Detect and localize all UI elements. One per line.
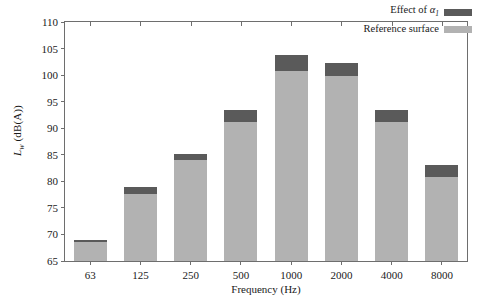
bar-segment-effect-of-alpha [124, 187, 157, 194]
bar-segment-reference-surface [325, 76, 358, 261]
bar-segment-reference-surface [124, 194, 157, 261]
y-axis-label-symbol: L [10, 150, 22, 156]
legend-label-effect-of-alpha: Effect of α1 [390, 4, 439, 20]
y-axis-label: Lw (dB(A)) [6, 0, 30, 262]
bar-segment-reference-surface [425, 177, 458, 261]
y-axis-tick-label: 70 [47, 226, 58, 242]
legend-label-reference-surface: Reference surface [364, 23, 439, 35]
y-axis-tick-label: 100 [42, 67, 59, 83]
x-axis-label: Frequency (Hz) [64, 283, 468, 295]
x-axis-tick-label: 125 [132, 268, 149, 282]
y-axis-tick-mark [61, 181, 65, 182]
x-axis-tick-label: 250 [182, 268, 199, 282]
bar-segment-effect-of-alpha [275, 55, 308, 71]
x-axis-tick-mark [291, 261, 292, 265]
bar-segment-effect-of-alpha [425, 165, 458, 177]
bar-segment-effect-of-alpha [375, 110, 408, 122]
bar-1000 [275, 55, 308, 261]
y-axis-tick-mark [61, 48, 65, 49]
bar-2000 [325, 63, 358, 261]
x-axis-tick-mark [341, 261, 342, 265]
legend-item-reference-surface: Reference surface [364, 23, 472, 35]
y-axis-label-subscript: w [17, 145, 26, 150]
x-axis-tick-mark [391, 261, 392, 265]
y-axis-tick-mark [61, 101, 65, 102]
x-axis-tick-mark-top [241, 22, 242, 26]
bar-segment-reference-surface [224, 122, 257, 261]
x-axis-tick-label: 8000 [431, 268, 453, 282]
bar-250 [174, 154, 207, 261]
x-axis-tick-mark [441, 261, 442, 265]
bar-segment-reference-surface [275, 71, 308, 261]
x-axis-tick-mark [140, 261, 141, 265]
x-axis-tick-mark-top [191, 22, 192, 26]
y-axis-tick-label: 90 [47, 120, 58, 136]
legend-swatch-reference-surface [444, 26, 472, 33]
legend-swatch-effect-of-alpha [444, 9, 472, 16]
y-axis-label-units: (dB(A)) [10, 106, 22, 145]
y-axis-tick-mark [61, 234, 65, 235]
x-axis-tick-mark-top [291, 22, 292, 26]
y-axis-tick-mark [61, 154, 65, 155]
y-axis-tick-mark [61, 128, 65, 129]
bar-segment-reference-surface [174, 160, 207, 261]
x-axis-tick-mark-top [341, 22, 342, 26]
bar-8000 [425, 165, 458, 261]
x-axis-tick-mark [190, 261, 191, 265]
y-axis-tick-mark [61, 75, 65, 76]
bar-segment-effect-of-alpha [174, 154, 207, 160]
y-axis-tick-label: 110 [42, 14, 58, 30]
bar-segment-effect-of-alpha [224, 110, 257, 122]
y-axis-tick-label: 85 [47, 147, 58, 163]
y-axis-tick-label: 80 [47, 173, 58, 189]
x-axis-tick-mark-top [90, 22, 91, 26]
y-axis-tick-mark [61, 261, 65, 262]
bar-segment-reference-surface [74, 242, 107, 261]
x-axis-tick-label: 500 [233, 268, 250, 282]
bar-63 [74, 241, 107, 261]
y-axis-tick-label: 105 [42, 41, 59, 57]
bar-segment-effect-of-alpha [325, 63, 358, 76]
legend-item-effect-of-alpha: Effect of α1 [390, 4, 472, 20]
bar-125 [124, 187, 157, 261]
x-axis-tick-label: 2000 [330, 268, 352, 282]
x-axis-tick-label: 63 [85, 268, 96, 282]
y-axis-tick-label: 95 [47, 94, 58, 110]
x-axis-tick-label: 1000 [280, 268, 302, 282]
x-axis-tick-mark-top [140, 22, 141, 26]
bar-segment-effect-of-alpha [74, 240, 107, 242]
bar-4000 [375, 110, 408, 261]
plot-area: 6570758085909510010511063125250500100020… [64, 21, 468, 262]
y-axis-tick-label: 75 [47, 200, 58, 216]
chart-figure: Lw (dB(A)) 65707580859095100105110631252… [0, 0, 478, 305]
y-axis-tick-mark [61, 207, 65, 208]
bar-500 [224, 110, 257, 261]
x-axis-tick-label: 4000 [381, 268, 403, 282]
x-axis-tick-mark [240, 261, 241, 265]
y-axis-tick-label: 65 [47, 253, 58, 269]
x-axis-tick-mark [90, 261, 91, 265]
chart-legend: Effect of α1 Reference surface [364, 4, 472, 35]
bar-segment-reference-surface [375, 122, 408, 261]
y-axis-tick-mark [61, 22, 65, 23]
